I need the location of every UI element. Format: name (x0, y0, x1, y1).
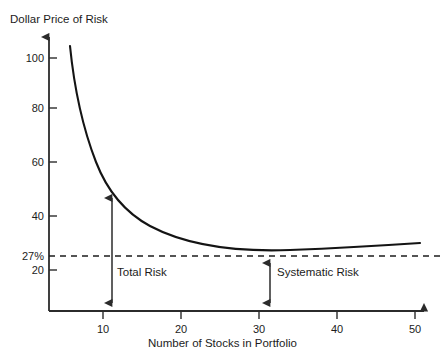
x-axis-title: Number of Stocks in Portfolio (0, 338, 445, 350)
x-tick-label-40: 40 (317, 324, 357, 335)
chart-canvas (0, 0, 445, 361)
y-tick-label-60: 60 (8, 157, 44, 168)
risk-curve (70, 46, 420, 250)
y-axis-title: Dollar Price of Risk (10, 14, 108, 26)
x-tick-label-50: 50 (395, 324, 435, 335)
y-tick-label-100: 100 (8, 53, 44, 64)
y-axis-ticks (49, 58, 57, 270)
x-tick-label-30: 30 (239, 324, 279, 335)
y-tick-label-80: 80 (8, 103, 44, 114)
y-tick-label-40: 40 (8, 211, 44, 222)
x-tick-label-20: 20 (161, 324, 201, 335)
annotation-systematic-risk: Systematic Risk (277, 267, 359, 279)
x-tick-label-10: 10 (83, 324, 123, 335)
x-axis-ticks (103, 311, 415, 319)
risk-diversification-chart: Dollar Price of Risk 100 80 60 40 27% 20… (0, 0, 445, 361)
annotation-total-risk: Total Risk (117, 267, 167, 279)
y-tick-label-20: 20 (8, 265, 44, 276)
y-tick-label-27pct: 27% (6, 251, 44, 262)
